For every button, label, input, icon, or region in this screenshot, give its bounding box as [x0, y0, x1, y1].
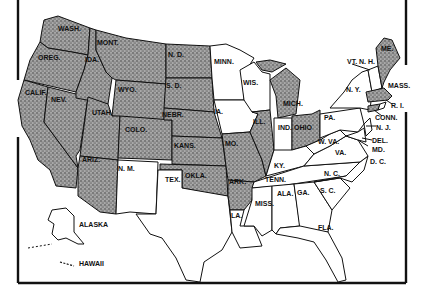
- label-nd: N. D.: [168, 51, 184, 58]
- label-nev: NEV.: [51, 96, 67, 103]
- label-nebr: NEBR.: [162, 111, 184, 118]
- label-dc: D. C.: [370, 158, 386, 165]
- label-ohio: OHIO: [294, 124, 312, 131]
- label-mo: MO.: [225, 140, 238, 147]
- label-ind: IND.: [278, 124, 292, 131]
- label-nm: N. M.: [118, 165, 135, 172]
- label-wva: W. VA.: [318, 138, 339, 145]
- label-ia: IA.: [214, 108, 223, 115]
- label-kans: KANS.: [174, 142, 196, 149]
- label-hawaii: HAWAII: [79, 260, 104, 267]
- label-del: DEL.: [372, 137, 388, 144]
- label-md: MD.: [372, 146, 385, 153]
- label-fla: FLA.: [318, 224, 334, 231]
- state-arizona: [78, 156, 118, 214]
- label-miss: MISS.: [255, 200, 274, 207]
- label-va: VA.: [335, 149, 346, 156]
- label-oreg: OREG.: [38, 54, 61, 61]
- label-idaho: IDA.: [85, 56, 99, 63]
- label-ark: ARK.: [229, 178, 246, 185]
- label-sc: S. C.: [320, 187, 336, 194]
- state-colorado: [118, 116, 172, 160]
- label-nc: N. C.: [324, 170, 340, 177]
- state-new-jersey: [364, 118, 372, 136]
- label-wis: WIS.: [243, 79, 258, 86]
- label-mich: MICH.: [283, 100, 303, 107]
- label-mass: MASS.: [388, 82, 410, 89]
- label-la: LA.: [231, 212, 242, 219]
- state-michigan: [270, 68, 300, 118]
- label-colo: COLO.: [125, 126, 147, 133]
- label-utah: UTAH: [92, 109, 111, 116]
- label-wash: WASH.: [58, 25, 81, 32]
- label-mont: MONT.: [97, 39, 119, 46]
- label-pa: PA.: [324, 114, 335, 121]
- label-tex: TEX.: [165, 176, 181, 183]
- label-sd: S. D.: [166, 82, 182, 89]
- label-conn: CONN.: [375, 114, 398, 121]
- label-wyo: WYO.: [118, 86, 137, 93]
- label-ri: R. I.: [391, 102, 404, 109]
- label-ga: GA.: [297, 189, 310, 196]
- state-north-dakota: [166, 44, 212, 78]
- state-rhode-island: [378, 102, 386, 110]
- label-ariz: ARIZ.: [82, 156, 100, 163]
- label-ny: N. Y.: [346, 86, 361, 93]
- label-minn: MINN.: [214, 58, 234, 65]
- state-hawaii: [60, 262, 74, 266]
- label-calif: CALIF.: [25, 89, 47, 96]
- state-kansas: [172, 136, 226, 166]
- label-vt-nh: VT. N. H.: [347, 58, 375, 65]
- label-ill: ILL.: [253, 118, 265, 125]
- alaska-islands: [28, 244, 52, 248]
- label-tenn: TENN.: [265, 176, 286, 183]
- label-alaska: ALASKA: [79, 221, 108, 228]
- label-ky: KY.: [274, 162, 285, 169]
- label-me: ME.: [381, 45, 394, 52]
- label-ala: ALA.: [277, 190, 293, 197]
- state-florida: [276, 226, 346, 282]
- us-states-map: WASH. OREG. CALIF. IDA. NEV. MONT. WYO. …: [0, 0, 421, 305]
- label-okla: OKLA.: [185, 172, 207, 179]
- label-nj: N. J.: [376, 124, 391, 131]
